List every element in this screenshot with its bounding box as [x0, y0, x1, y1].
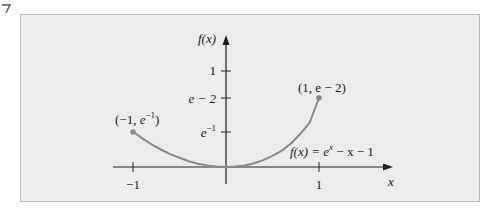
x-axis-arrow-icon: [383, 164, 393, 171]
x-tick-label-1: 1: [316, 177, 323, 192]
point-left: [130, 129, 136, 135]
point-right-label: (1, e − 2): [298, 80, 346, 95]
function-label: f(x) = ex − x − 1: [290, 142, 374, 159]
y-axis-arrow-icon: [223, 35, 230, 45]
y-axis: f(x) 1 e − 2 e−1: [188, 31, 231, 184]
x-axis-label: x: [387, 174, 394, 189]
point-right: [316, 95, 322, 101]
y-tick-label-1: 1: [210, 63, 217, 78]
x-tick-label-neg1: −1: [126, 177, 140, 192]
function-plot: −1 1 x f(x) 1 e − 2 e−1 (−1, e−1) (1, e …: [0, 0, 495, 212]
y-tick-label-e-inverse: e−1: [201, 123, 216, 140]
y-axis-label: f(x): [198, 31, 216, 46]
point-left-label: (−1, e−1): [115, 110, 159, 127]
y-tick-label-e-minus-2: e − 2: [188, 91, 216, 106]
x-axis: −1 1 x: [113, 162, 394, 192]
